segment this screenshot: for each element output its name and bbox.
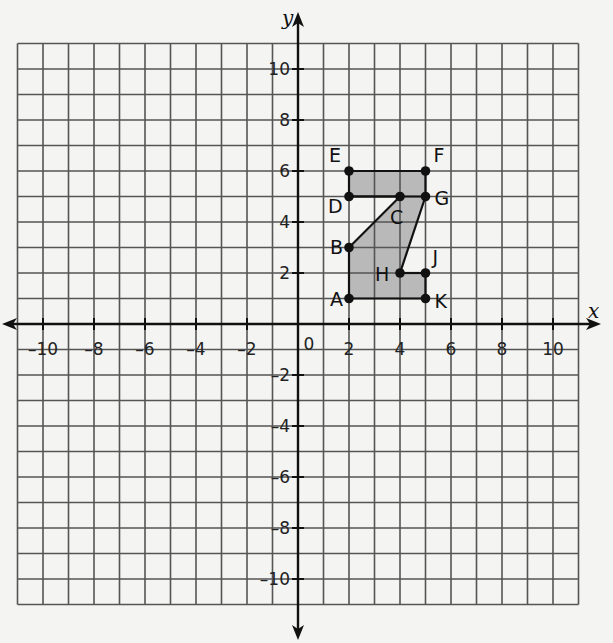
y-tick-label: 8 <box>279 110 290 130</box>
y-tick-label: –6 <box>271 467 290 487</box>
point-marker <box>344 243 354 253</box>
y-tick-label: –8 <box>271 518 290 538</box>
point-D: D <box>328 192 354 217</box>
point-marker <box>421 268 431 278</box>
point-marker <box>421 192 431 202</box>
x-tick-label: 2 <box>344 339 355 359</box>
coordinate-plane: xy–10–8–6–4–2246810–10–8–6–4–22468100ABC… <box>0 0 613 643</box>
y-axis-label: y <box>281 6 294 30</box>
point-label: K <box>435 290 448 312</box>
y-tick-label: 10 <box>268 59 290 79</box>
y-tick-label: 6 <box>279 161 290 181</box>
x-tick-label: 10 <box>542 339 564 359</box>
point-label: F <box>434 144 445 166</box>
x-tick-label: 4 <box>395 339 406 359</box>
point-marker <box>395 268 405 278</box>
origin-label: 0 <box>304 334 315 354</box>
point-label: C <box>390 206 403 228</box>
point-label: H <box>375 263 389 285</box>
axes: xy <box>2 6 601 640</box>
x-tick-label: –8 <box>84 339 103 359</box>
y-tick-label: 4 <box>279 212 290 232</box>
y-tick-label: –4 <box>271 416 290 436</box>
point-label: B <box>330 236 343 258</box>
y-tick-label: 2 <box>279 263 290 283</box>
x-tick-label: –6 <box>135 339 154 359</box>
x-axis-label: x <box>588 299 599 323</box>
y-tick-label: –2 <box>271 365 290 385</box>
point-label: A <box>330 288 343 310</box>
y-tick-label: –10 <box>260 569 290 589</box>
x-tick-label: –4 <box>186 339 205 359</box>
x-tick-label: 6 <box>446 339 457 359</box>
point-label: D <box>328 195 343 217</box>
point-marker <box>344 192 354 202</box>
point-label: G <box>435 187 450 209</box>
point-marker <box>344 294 354 304</box>
point-label: J <box>432 246 439 268</box>
x-tick-label: –10 <box>28 339 58 359</box>
x-tick-label: –2 <box>237 339 256 359</box>
point-marker <box>395 192 405 202</box>
point-marker <box>421 166 431 176</box>
point-marker <box>344 166 354 176</box>
point-label: E <box>329 144 341 166</box>
point-marker <box>421 294 431 304</box>
x-tick-label: 8 <box>497 339 508 359</box>
